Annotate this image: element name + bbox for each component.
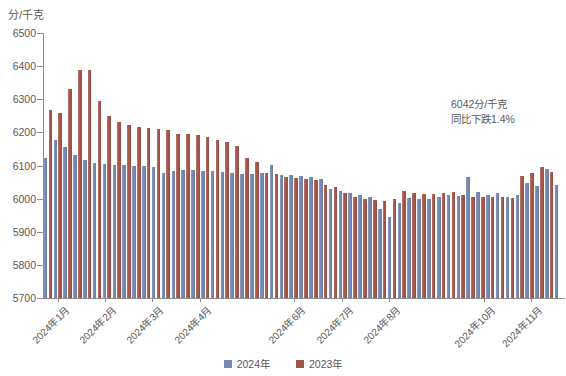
bar-2023: [196, 135, 200, 298]
bar-2023: [324, 185, 328, 298]
x-axis-label: 2024年10月: [450, 302, 498, 350]
bar-2024: [103, 164, 107, 298]
bar-2023: [471, 197, 475, 298]
bar-2024: [447, 195, 451, 298]
bar-2023: [176, 134, 180, 298]
bar-2024: [221, 172, 225, 298]
bar-2024: [309, 177, 313, 298]
bar-2024: [398, 203, 402, 298]
bar-2024: [339, 191, 343, 298]
bar-2024: [152, 167, 156, 298]
bar-2023: [58, 113, 62, 298]
bar-2023: [363, 199, 367, 298]
bar-2023: [383, 201, 387, 298]
bar-2024: [113, 165, 117, 298]
x-axis-line: [43, 298, 565, 299]
bar-2023: [402, 191, 406, 298]
bar-2023: [98, 101, 102, 298]
legend-label: 2024年: [237, 356, 270, 371]
annotation-change: 同比下跌1.4%: [451, 112, 515, 127]
bar-2023: [550, 172, 554, 298]
bar-2023: [117, 122, 121, 298]
bar-2023: [412, 193, 416, 298]
bar-2023: [245, 158, 249, 298]
chart-legend: 2024年2023年: [0, 356, 566, 371]
x-axis-label: 2024年3月: [122, 302, 166, 346]
bar-2023: [393, 199, 397, 298]
bar-2023: [88, 70, 92, 298]
bar-2023: [225, 142, 229, 298]
bar-2023: [491, 197, 495, 298]
x-axis-label: 2024年1月: [28, 302, 72, 346]
bar-2023: [432, 194, 436, 298]
x-axis-label: 2024年6月: [265, 302, 309, 346]
y-axis-label: 6400: [2, 60, 36, 72]
x-axis-label: 2024年2月: [75, 302, 119, 346]
plot-area: [43, 33, 564, 298]
bar-2023: [511, 198, 515, 298]
y-axis-title: 分/千克: [8, 6, 44, 22]
bar-2024: [378, 209, 382, 298]
y-axis-label: 6300: [2, 93, 36, 105]
bar-2024: [289, 175, 293, 298]
bar-2024: [555, 185, 559, 298]
bar-2023: [166, 130, 170, 298]
bar-2023: [49, 110, 53, 298]
bar-2023: [216, 140, 220, 298]
bar-2024: [368, 197, 372, 298]
bar-2024: [260, 173, 264, 298]
x-axis-tick: [342, 298, 343, 302]
bar-2023: [68, 89, 72, 298]
bar-2023: [294, 178, 298, 298]
legend-item[interactable]: 2024年: [224, 356, 270, 371]
bar-2024: [516, 195, 520, 298]
bar-2024: [319, 179, 323, 298]
bar-2024: [348, 193, 352, 298]
bar-2023: [186, 134, 190, 298]
bar-2023: [422, 194, 426, 298]
bar-2023: [501, 197, 505, 298]
bar-2024: [93, 163, 97, 298]
x-axis-tick: [294, 298, 295, 302]
x-axis-tick: [531, 298, 532, 302]
y-axis-label: 6100: [2, 160, 36, 172]
bar-2023: [461, 195, 465, 298]
bar-2023: [127, 125, 131, 298]
bar-2023: [442, 193, 446, 298]
bar-2024: [44, 158, 48, 298]
bar-2023: [343, 193, 347, 298]
bar-2023: [530, 173, 534, 298]
x-axis-tick: [389, 298, 390, 302]
legend-swatch-icon: [296, 360, 304, 368]
x-axis-label: 2024年11月: [498, 302, 546, 350]
x-axis-tick: [484, 298, 485, 302]
bar-2024: [545, 169, 549, 298]
bar-2024: [201, 171, 205, 298]
bar-2023: [314, 180, 318, 298]
bar-2024: [437, 197, 441, 298]
bar-2023: [452, 192, 456, 298]
y-axis-label: 6200: [2, 126, 36, 138]
bar-2024: [496, 193, 500, 298]
bar-2024: [407, 198, 411, 298]
legend-swatch-icon: [224, 360, 232, 368]
legend-item[interactable]: 2023年: [296, 356, 342, 371]
bar-2024: [172, 171, 176, 298]
bar-2024: [132, 166, 136, 298]
x-axis-tick: [152, 298, 153, 302]
y-axis-label: 6000: [2, 193, 36, 205]
bar-2024: [417, 199, 421, 298]
bar-2024: [63, 147, 67, 298]
bar-2023: [353, 197, 357, 298]
x-axis-label: 2024年4月: [170, 302, 214, 346]
x-axis-tick: [58, 298, 59, 302]
bar-2023: [304, 179, 308, 298]
bar-2023: [78, 70, 82, 298]
annotation-value: 6042分/千克: [451, 97, 515, 112]
y-axis-label: 6500: [2, 27, 36, 39]
bar-2024: [476, 192, 480, 298]
bar-2023: [284, 177, 288, 298]
bar-2024: [457, 196, 461, 298]
bar-2024: [230, 173, 234, 298]
bar-2024: [240, 174, 244, 298]
